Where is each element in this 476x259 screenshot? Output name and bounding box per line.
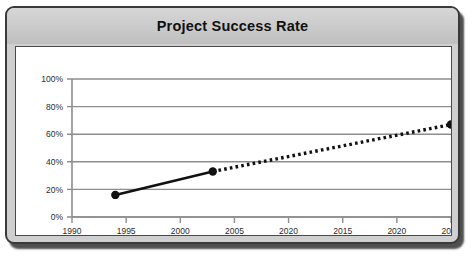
data-line-group <box>115 125 451 195</box>
y-axis-tick-label: 80% <box>46 102 63 112</box>
x-axis-tick-label: 2015 <box>333 226 352 235</box>
y-axis-tick-label: 60% <box>46 129 63 139</box>
y-axis-tick-label: 20% <box>46 185 63 195</box>
x-axis-tick-label: 2020 <box>279 226 298 235</box>
x-axis-tick-label: 2020 <box>387 226 406 235</box>
x-axis-tick-label: 1990 <box>63 226 82 235</box>
gridlines-group <box>72 79 451 217</box>
y-axis-tick-label: 100% <box>41 74 63 84</box>
data-marker-group <box>111 120 451 199</box>
y-axis-tick-labels-group: 0%20%40%60%80%100% <box>41 74 63 222</box>
data-point-marker <box>209 167 217 175</box>
y-axis-tick-label: 40% <box>46 157 63 167</box>
x-axis-tick-label: 1995 <box>117 226 136 235</box>
data-line-segment-dotted <box>213 125 451 172</box>
line-chart-svg: 0%20%40%60%80%100% 199019952000200520202… <box>16 47 451 235</box>
data-point-marker <box>111 191 119 199</box>
data-line-segment-solid <box>115 171 212 194</box>
x-axis-tick-label: 2025 <box>442 226 451 235</box>
chart-title: Project Success Rate <box>157 18 309 34</box>
plot-area-container: 0%20%40%60%80%100% 199019952000200520202… <box>15 46 452 236</box>
x-axis-tick-labels-group: 19901995200020052020201520202025 <box>63 226 451 235</box>
y-axis-tick-label: 0% <box>51 212 64 222</box>
data-point-marker <box>447 120 451 128</box>
x-axis-tick-label: 2005 <box>225 226 244 235</box>
chart-card: Project Success Rate 0%20%40%60%80%100% … <box>5 6 460 244</box>
x-axis-tick-label: 2000 <box>171 226 190 235</box>
x-axis-ticks-group <box>72 217 451 223</box>
chart-title-bar: Project Success Rate <box>7 8 458 44</box>
